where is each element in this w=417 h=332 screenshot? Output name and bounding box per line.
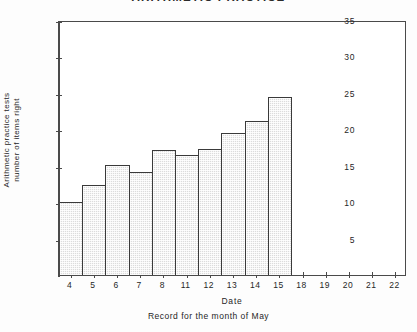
y-axis-tick-label: 35 <box>331 16 355 26</box>
bar <box>245 121 269 275</box>
y-axis-title: Arithmetic practice tests number of item… <box>2 65 22 215</box>
x-axis-tick-label: 11 <box>173 280 199 290</box>
x-axis-tick-label: 8 <box>149 280 175 290</box>
y-axis-tick-label: 30 <box>331 52 355 62</box>
x-axis-tick-label: 22 <box>381 280 407 290</box>
y-axis-title-line-2: number of items right <box>12 65 22 215</box>
bar <box>82 185 106 275</box>
x-axis-tick-label: 4 <box>57 280 83 290</box>
x-axis-title: Date <box>58 296 406 306</box>
x-axis-tick-label: 12 <box>196 280 222 290</box>
chart-title-clip: ARITHMETIC PRACTICE <box>0 0 417 4</box>
x-axis-tick-label: 20 <box>335 280 361 290</box>
bar <box>152 150 176 275</box>
bar <box>59 202 83 275</box>
y-axis-tick-label: 25 <box>331 89 355 99</box>
chart-title: ARITHMETIC PRACTICE <box>0 0 417 3</box>
bar <box>198 149 222 275</box>
chart-caption: Record for the month of May <box>0 311 417 321</box>
x-axis-tick-label: 19 <box>312 280 338 290</box>
x-axis-tick-label: 5 <box>80 280 106 290</box>
x-axis-tick-label: 14 <box>242 280 268 290</box>
bar <box>129 172 153 275</box>
x-axis-tick-label: 18 <box>289 280 315 290</box>
x-axis-tick-label: 21 <box>358 280 384 290</box>
y-axis-title-line-1: Arithmetic practice tests <box>2 65 12 215</box>
chart-figure: ARITHMETIC PRACTICE Arithmetic practice … <box>0 0 417 332</box>
y-axis-tick-label: 5 <box>331 235 355 245</box>
x-axis-tick-label: 13 <box>219 280 245 290</box>
y-axis-tick-label: 20 <box>331 125 355 135</box>
y-axis-tick-label: 10 <box>331 198 355 208</box>
x-axis-tick-label: 7 <box>126 280 152 290</box>
bar <box>268 97 292 275</box>
bar <box>175 155 199 275</box>
bar <box>221 133 245 275</box>
x-axis-tick-label: 15 <box>265 280 291 290</box>
bar <box>105 165 129 275</box>
x-axis-tick-label: 6 <box>103 280 129 290</box>
y-axis-tick-label: 15 <box>331 162 355 172</box>
